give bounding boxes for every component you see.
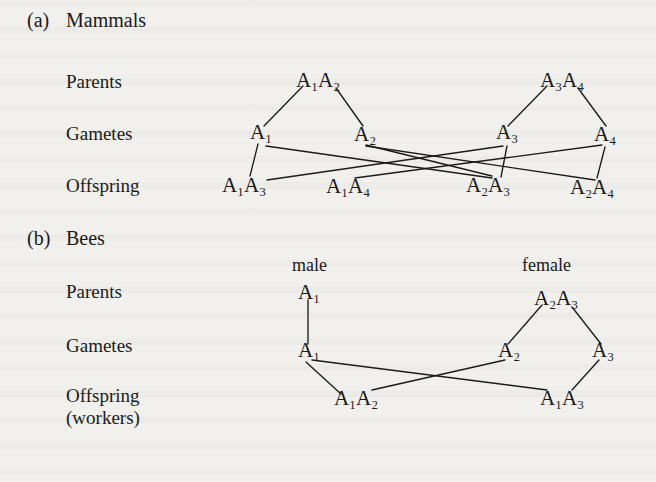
- edge-p1-to-gA2: [336, 88, 363, 126]
- row-label-offspring-mammals: Offspring: [66, 176, 140, 195]
- row-label-gametes-mammals: Gametes: [66, 124, 132, 143]
- figure-panel: (a) Mammals Parents Gametes Offspring A₁…: [0, 0, 656, 482]
- mammal-offspring-a1a3: A₁A₃: [222, 175, 266, 196]
- section-tag-bees: (b): [27, 228, 50, 248]
- row-label-parents-mammals: Parents: [66, 72, 122, 91]
- section-title-bees: Bees: [66, 228, 105, 248]
- bee-parent-male: A₁: [298, 282, 320, 303]
- row-label-parents-bees: Parents: [66, 282, 122, 301]
- section-tag-mammals: (a): [27, 10, 49, 30]
- edge-bee-gA2-to-oA1A2: [372, 360, 505, 390]
- bee-parent-female: A₂A₃: [534, 288, 578, 309]
- edge-p2-to-gA4: [578, 88, 606, 126]
- bee-sex-label-female: female: [522, 256, 571, 274]
- bee-gamete-a3: A₃: [592, 340, 614, 361]
- bee-offspring-a1a2: A₁A₂: [334, 388, 378, 409]
- mammal-gamete-a3: A₃: [496, 122, 518, 143]
- mammal-gamete-a2: A₂: [354, 124, 376, 145]
- bee-gamete-a1: A₁: [298, 340, 320, 361]
- edge-gA2-to-oA2A3: [366, 145, 492, 176]
- edge-gA1-to-oA1A3: [250, 144, 258, 176]
- bee-sex-label-male: male: [292, 256, 327, 274]
- edge-gA4-to-oA2A4: [597, 147, 605, 178]
- mammal-parent-right: A₃A₄: [540, 70, 584, 91]
- mammal-gamete-a1: A₁: [250, 122, 272, 143]
- bee-gamete-a2: A₂: [498, 340, 520, 361]
- mammal-gamete-a4: A₄: [594, 124, 616, 145]
- bee-offspring-a1a3: A₁A₃: [540, 388, 584, 409]
- row-label-gametes-bees: Gametes: [66, 336, 132, 355]
- section-title-mammals: Mammals: [66, 10, 146, 30]
- edge-gA1-to-oA1A4: [266, 146, 492, 178]
- row-label-offspring-bees-sub: (workers): [66, 408, 140, 427]
- mammal-parent-left: A₁A₂: [296, 70, 340, 91]
- row-label-offspring-bees: Offspring: [66, 386, 140, 405]
- mammal-offspring-a1a4: A₁A₄: [326, 176, 370, 197]
- mammal-offspring-a2a3: A₂A₃: [466, 175, 510, 196]
- mammal-offspring-a2a4: A₂A₄: [570, 177, 614, 198]
